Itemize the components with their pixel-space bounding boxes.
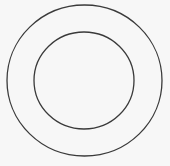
background bbox=[0, 0, 170, 166]
concentric-circles-diagram bbox=[0, 0, 170, 166]
